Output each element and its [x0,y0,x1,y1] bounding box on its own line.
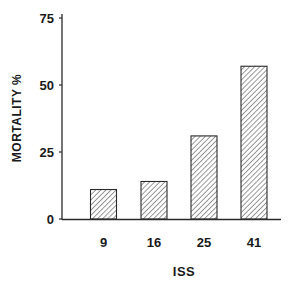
x-axis-ticks: 9162541 [100,235,261,250]
bar-16 [141,181,167,219]
x-axis-title: ISS [173,264,195,279]
x-tick-label: 25 [197,235,211,250]
bar-25 [191,136,217,219]
bars [91,66,268,219]
y-axis-ticks: 0255075 [40,11,62,227]
bar-41 [241,66,267,219]
x-tick-label: 9 [100,235,107,250]
bar-chart: MORTALITY % 0255075 9162541 ISS [0,0,291,288]
y-axis-title: MORTALITY % [10,74,24,162]
y-tick-label: 0 [47,212,54,227]
y-tick-label: 75 [40,11,54,26]
bar-9 [91,190,117,219]
y-tick-label: 50 [40,78,54,93]
x-tick-label: 16 [147,235,161,250]
y-tick-label: 25 [40,145,54,160]
x-tick-label: 41 [247,235,261,250]
